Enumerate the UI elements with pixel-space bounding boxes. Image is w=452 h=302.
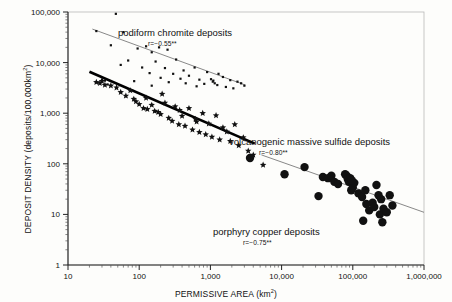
series-annotation-label: podiform chromite deposits (118, 27, 232, 38)
y-tick-label: 1,000 (10, 109, 60, 118)
x-tick-label: 10,000 (269, 272, 293, 281)
x-tick-label: 1,000,000 (406, 272, 442, 281)
x-axis-title-text: PERMISSIVE AREA (km (175, 289, 271, 299)
scatter-plot (0, 0, 452, 302)
series-annotation-label: volcanogenic massive sulfide deposits (229, 136, 390, 147)
figure-canvas: PERMISSIVE AREA (km2) DEPOSIT DENSITY (d… (0, 0, 452, 302)
y-tick-label: 100 (10, 159, 60, 168)
y-axis-title-inner: DEPOSIT DENSITY (deposits/100,000km2) (23, 65, 33, 234)
y-tick-label: 1 (10, 261, 60, 270)
x-axis-title-close: ) (274, 289, 277, 299)
data-points (93, 13, 397, 227)
x-axis-title: PERMISSIVE AREA (km2) (0, 288, 452, 299)
x-tick-label: 10 (64, 272, 73, 281)
series-annotation-label: porphyry copper deposits (213, 226, 320, 237)
series-correlation-label: r=−0.75** (243, 239, 272, 246)
y-tick-label: 10,000 (10, 58, 60, 67)
x-tick-label: 100,000 (338, 272, 367, 281)
y-tick-label: 100,000 (10, 8, 60, 17)
x-tick-label: 100 (133, 272, 146, 281)
series-correlation-label: r=−0.55** (148, 40, 177, 47)
series-correlation-label: r=−0.80** (259, 149, 288, 156)
x-tick-label: 1,000 (200, 272, 220, 281)
y-tick-label: 10 (10, 210, 60, 219)
